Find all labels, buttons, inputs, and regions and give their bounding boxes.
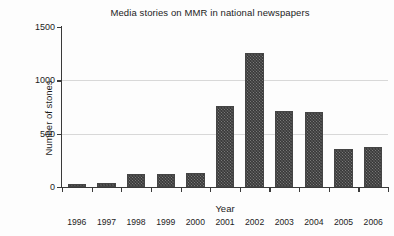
x-tick-label-2002: 2002: [245, 217, 264, 227]
x-tick-mark: [92, 187, 93, 192]
bar-2005: [334, 149, 352, 187]
bar-2002: [245, 53, 263, 187]
x-tick-mark: [151, 187, 152, 192]
y-tick-mark: [57, 80, 62, 81]
x-tick-mark: [210, 187, 211, 192]
x-tick-mark: [299, 187, 300, 192]
bar-2000: [186, 173, 204, 187]
x-tick-label-2004: 2004: [304, 217, 323, 227]
x-tick-mark: [329, 187, 330, 192]
plot-area: 0500100015001996199719981999200020012002…: [62, 27, 388, 187]
bar-2003: [275, 111, 293, 187]
x-tick-mark: [388, 187, 389, 192]
y-tick-mark: [57, 27, 62, 28]
bar-2001: [216, 106, 234, 187]
x-tick-label-1997: 1997: [97, 217, 116, 227]
x-axis-title: Year: [62, 203, 388, 214]
y-tick-label: 0: [50, 182, 55, 192]
chart-figure: Media stories on MMR in national newspap…: [0, 0, 394, 236]
gridline: [62, 80, 388, 81]
bar-2006: [364, 147, 382, 187]
x-tick-mark: [181, 187, 182, 192]
bar-1997: [97, 183, 115, 187]
x-tick-label-1996: 1996: [67, 217, 86, 227]
x-tick-label-1998: 1998: [127, 217, 146, 227]
bar-1996: [68, 184, 86, 187]
x-tick-mark: [121, 187, 122, 192]
bar-2004: [305, 112, 323, 187]
x-tick-label-2005: 2005: [334, 217, 353, 227]
x-axis-line: [61, 187, 389, 188]
y-tick-mark: [57, 134, 62, 135]
x-tick-label-2006: 2006: [364, 217, 383, 227]
x-tick-mark: [240, 187, 241, 192]
x-tick-label-2003: 2003: [275, 217, 294, 227]
x-tick-mark: [269, 187, 270, 192]
x-tick-mark: [62, 187, 63, 192]
x-tick-mark: [358, 187, 359, 192]
x-tick-label-2001: 2001: [215, 217, 234, 227]
x-tick-label-2000: 2000: [186, 217, 205, 227]
bar-1999: [157, 174, 175, 187]
x-tick-label-1999: 1999: [156, 217, 175, 227]
chart-title: Media stories on MMR in national newspap…: [60, 7, 360, 18]
y-axis-title: Number of stones: [43, 81, 54, 156]
bar-1998: [127, 174, 145, 187]
y-tick-label: 1500: [35, 22, 55, 32]
